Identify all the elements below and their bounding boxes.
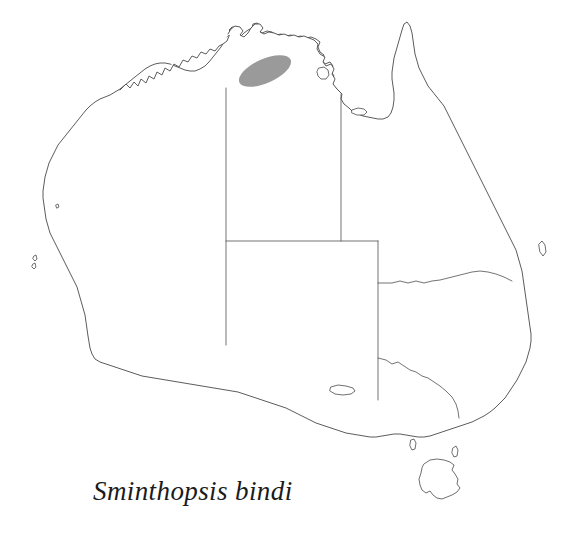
island-king (410, 439, 416, 450)
australia-map (0, 0, 571, 546)
island-fraser (539, 241, 546, 256)
mainland-coastline (43, 22, 531, 437)
island-mornington (352, 108, 367, 115)
species-distribution-figure: Sminthopsis bindi (0, 0, 571, 546)
island-shark-bay-islet (32, 263, 36, 269)
island-tasmania (419, 459, 460, 499)
island-flinders (452, 446, 458, 457)
island-wa-coastal-islet (56, 204, 59, 208)
island-dirk-hartog (33, 255, 37, 261)
